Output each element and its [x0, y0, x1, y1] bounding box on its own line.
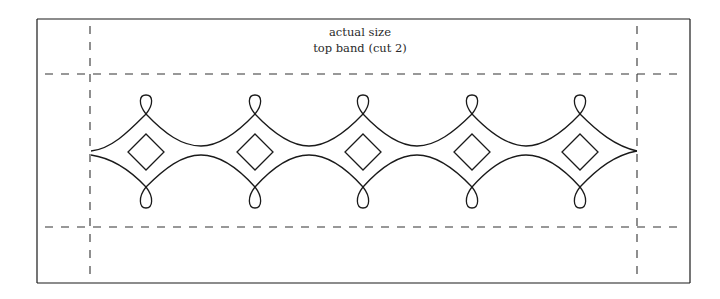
- motif-4: [454, 95, 490, 208]
- bottom-loop: [357, 187, 368, 208]
- bottom-loop: [466, 187, 477, 208]
- top-loop: [140, 95, 151, 114]
- top-loop: [574, 95, 585, 114]
- motifs: [128, 95, 598, 208]
- motif-1: [128, 95, 164, 208]
- top-loop: [357, 95, 368, 114]
- inner-diamond: [562, 134, 598, 170]
- caption-scale: actual size: [0, 25, 720, 40]
- bottom-loop: [140, 187, 151, 208]
- top-loop: [466, 95, 477, 114]
- top-loop: [249, 95, 260, 114]
- inner-diamond: [237, 134, 273, 170]
- band-top-edge: [91, 114, 637, 151]
- inner-diamond: [345, 134, 381, 170]
- motif-3: [345, 95, 381, 208]
- bottom-loop: [249, 187, 260, 208]
- inner-diamond: [128, 134, 164, 170]
- motif-5: [562, 95, 598, 208]
- bottom-loop: [574, 187, 585, 208]
- caption-title: top band (cut 2): [0, 41, 720, 56]
- inner-diamond: [454, 134, 490, 170]
- pattern-sheet: actual size top band (cut 2): [0, 0, 720, 299]
- cut-lines: [45, 26, 684, 276]
- motif-2: [237, 95, 273, 208]
- outer-border: [37, 19, 690, 283]
